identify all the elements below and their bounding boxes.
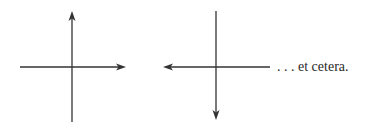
axes-figure-1 xyxy=(20,11,126,122)
axes-figure-2 xyxy=(163,11,270,120)
caption-text: . . . et cetera. xyxy=(277,58,349,76)
